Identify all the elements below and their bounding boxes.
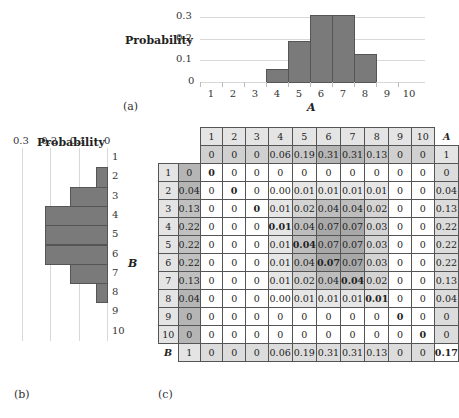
x-tick-mark <box>288 82 289 87</box>
x-tick-label: 4 <box>266 88 288 99</box>
joint-cell: 0.04 <box>341 200 365 218</box>
joint-cell: 0 <box>245 254 268 272</box>
marginal-b-cell: 0 <box>178 308 200 326</box>
joint-cell: 0 <box>200 182 223 200</box>
bar <box>332 15 355 83</box>
joint-cell: 0 <box>200 254 223 272</box>
joint-cell: 0.03 <box>365 254 389 272</box>
corner-label-a: A <box>434 128 458 146</box>
x-tick-label: 10 <box>398 88 420 99</box>
x-tick-mark <box>398 82 399 87</box>
column-header-a: 6 <box>316 128 340 146</box>
joint-cell: 0.00 <box>268 290 292 308</box>
joint-cell: 0 <box>200 236 223 254</box>
x-tick-mark <box>222 82 223 87</box>
y-tick-label: 2 <box>112 170 118 181</box>
joint-cell: 0.07 <box>341 254 365 272</box>
joint-cell: 0 <box>223 254 246 272</box>
joint-cell: 0 <box>245 236 268 254</box>
x-tick-label: 9 <box>376 88 398 99</box>
joint-cell: 0.01 <box>365 182 389 200</box>
y-tick-label: 0.3 <box>176 10 192 21</box>
y-tick-label: 4 <box>112 209 118 220</box>
joint-cell: 0 <box>411 272 434 290</box>
marginal-a-cell: 0 <box>223 146 246 164</box>
joint-cell: 0 <box>223 308 246 326</box>
chart-a-xlabel: A <box>307 101 316 114</box>
joint-cell: 0 <box>411 218 434 236</box>
joint-cell: 0.01 <box>268 272 292 290</box>
marginal-b-cell: 0.22 <box>178 236 200 254</box>
row-header-b: 3 <box>159 200 179 218</box>
joint-cell: 0.04 <box>341 272 365 290</box>
marginal-b-repeat: 0 <box>434 326 458 344</box>
x-tick-label: 0.3 <box>13 135 29 146</box>
chart-a-plot-area: 00.10.20.312345678910 <box>200 0 425 85</box>
bar <box>288 41 311 83</box>
y-tick-label: 9 <box>112 305 118 316</box>
marginal-b-repeat: 0 <box>434 164 458 182</box>
marginal-a-repeat: 0 <box>411 344 434 362</box>
bar <box>45 245 108 265</box>
x-tick-mark <box>244 82 245 87</box>
marginal-a-repeat: 0.13 <box>365 344 389 362</box>
joint-cell: 0.01 <box>316 182 340 200</box>
table-row: 10000000000000 <box>159 326 459 344</box>
joint-cell: 0.01 <box>268 200 292 218</box>
joint-cell: 0 <box>389 308 412 326</box>
joint-cell: 0 <box>411 308 434 326</box>
column-header-a: 1 <box>200 128 223 146</box>
marginal-b-repeat: 0.04 <box>434 182 458 200</box>
row-header-b: 2 <box>159 182 179 200</box>
gridline <box>22 148 23 341</box>
y-tick-label: 6 <box>112 248 118 259</box>
joint-cell: 0 <box>341 164 365 182</box>
joint-cell: 0 <box>200 218 223 236</box>
empty-corner <box>159 146 179 164</box>
column-header-a: 4 <box>268 128 292 146</box>
bar <box>70 264 108 284</box>
joint-cell: 0.04 <box>292 236 316 254</box>
row-header-b: 1 <box>159 164 179 182</box>
marginal-a-cell: 0.31 <box>316 146 340 164</box>
marginal-a-repeat: 0 <box>245 344 268 362</box>
joint-cell: 0 <box>245 326 268 344</box>
marginal-a-repeat: 0 <box>389 344 412 362</box>
marginal-a-repeat: 0.31 <box>341 344 365 362</box>
marginal-b-cell: 0.13 <box>178 200 200 218</box>
marginal-b-repeat: 0.13 <box>434 200 458 218</box>
joint-cell: 0.02 <box>365 200 389 218</box>
marginal-a-cell: 0.19 <box>292 146 316 164</box>
marginal-a-cell: 0.06 <box>268 146 292 164</box>
joint-cell: 0 <box>223 236 246 254</box>
joint-cell: 0.01 <box>292 290 316 308</box>
bar <box>45 206 108 226</box>
joint-cell: 0 <box>389 200 412 218</box>
row-header-b: 5 <box>159 236 179 254</box>
empty-corner <box>159 128 179 146</box>
marginal-a-total: 1 <box>434 146 458 164</box>
joint-cell: 0 <box>365 164 389 182</box>
joint-cell: 0 <box>268 308 292 326</box>
joint-cell: 0.01 <box>341 182 365 200</box>
joint-cell: 0 <box>365 326 389 344</box>
table-row: 40.220000.010.040.070.070.03000.22 <box>159 218 459 236</box>
table-row: 9000000000000 <box>159 308 459 326</box>
table-row: 60.220000.010.040.070.070.03000.22 <box>159 254 459 272</box>
marginal-b-total: 1 <box>178 344 200 362</box>
joint-cell: 0.02 <box>365 272 389 290</box>
column-header-a: 9 <box>389 128 412 146</box>
column-header-a: 7 <box>341 128 365 146</box>
joint-cell: 0 <box>411 200 434 218</box>
y-tick-label: 7 <box>112 267 118 278</box>
table-row: 50.220000.010.040.070.070.03000.22 <box>159 236 459 254</box>
joint-cell: 0 <box>389 326 412 344</box>
joint-cell: 0 <box>411 236 434 254</box>
x-tick-label: 5 <box>288 88 310 99</box>
joint-cell: 0 <box>292 326 316 344</box>
joint-cell: 0 <box>245 290 268 308</box>
joint-cell: 0 <box>245 182 268 200</box>
joint-cell: 0 <box>245 164 268 182</box>
joint-cell: 0 <box>223 200 246 218</box>
x-tick-label: 7 <box>332 88 354 99</box>
